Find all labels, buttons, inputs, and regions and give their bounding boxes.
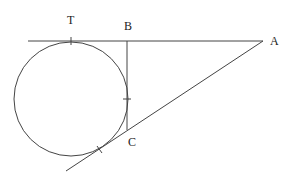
label-b: B <box>124 19 132 33</box>
tangent-line-lower <box>66 41 263 171</box>
geometry-diagram: T B A C <box>0 0 296 175</box>
label-t: T <box>67 13 75 27</box>
circle <box>14 42 128 156</box>
label-a: A <box>270 34 279 48</box>
label-c: C <box>128 135 136 149</box>
